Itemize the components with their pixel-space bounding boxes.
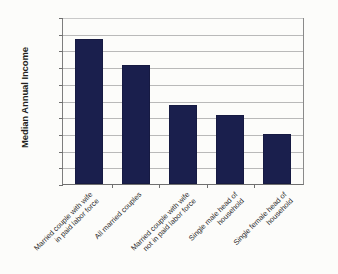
bar[interactable] <box>263 134 291 184</box>
bar-slot <box>207 18 254 184</box>
plot-area <box>62 18 304 185</box>
bar-slot <box>254 18 301 184</box>
bar-chart: Median Annual Income $10,000$20,000$30,0… <box>0 0 338 274</box>
bar-slot <box>65 18 112 184</box>
bar-slot <box>159 18 206 184</box>
bar[interactable] <box>122 65 150 184</box>
bars-layer <box>63 18 303 184</box>
x-axis-tick-labels: Married couple with wifein paid labor fo… <box>62 188 304 272</box>
bar[interactable] <box>75 39 103 184</box>
bar[interactable] <box>169 105 197 184</box>
bar[interactable] <box>216 115 244 184</box>
x-label-slot: Single female head ofhousehold <box>256 188 304 272</box>
bar-slot <box>112 18 159 184</box>
y-tick-mark-zero <box>59 185 63 186</box>
